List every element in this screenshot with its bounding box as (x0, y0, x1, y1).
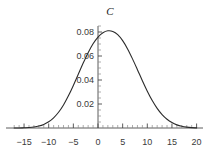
x-tick-label: −10 (41, 137, 56, 147)
y-axis: 0.020.040.060.08 (76, 26, 102, 128)
x-tick-label: −5 (68, 137, 78, 147)
y-axis-tick-labels: 0.020.040.060.08 (76, 27, 94, 109)
x-tick-label: 20 (192, 137, 202, 147)
data-curve-c (14, 31, 196, 128)
x-tick-label: −15 (16, 137, 31, 147)
plot-canvas: C −15−10−505101520 0.020.040.060.08 (0, 0, 209, 151)
y-tick-label: 0.02 (76, 99, 94, 109)
x-axis-tick-labels: −15−10−505101520 (16, 137, 201, 147)
x-axis-major-ticks (24, 124, 197, 129)
y-tick-label: 0.04 (76, 75, 94, 85)
y-tick-label: 0.08 (76, 27, 94, 37)
x-tick-label: 0 (95, 137, 100, 147)
x-tick-label: 15 (167, 137, 177, 147)
chart-figure: C −15−10−505101520 0.020.040.060.08 (0, 0, 209, 151)
x-tick-label: 10 (142, 137, 152, 147)
chart-title: C (106, 5, 114, 17)
x-tick-label: 5 (120, 137, 125, 147)
